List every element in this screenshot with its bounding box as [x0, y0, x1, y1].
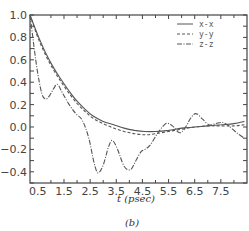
- y-tick-label: 0.4: [10, 76, 28, 89]
- legend-label: z-z: [199, 40, 214, 49]
- y-tick-label: 0.0: [10, 121, 28, 134]
- x-tick-label: 6.5: [186, 185, 204, 198]
- x-tick-label: 2.5: [81, 185, 99, 198]
- y-tick-label: 0.8: [10, 31, 28, 44]
- legend-label: y-y: [199, 30, 214, 39]
- legend-label: x-x: [199, 20, 214, 29]
- y-tick-label: −0.2: [0, 143, 27, 156]
- legend: x-xy-yz-z: [177, 20, 214, 49]
- x-tick-label: 5.5: [160, 185, 178, 198]
- y-tick-label: −0.4: [0, 166, 27, 179]
- plot-border: [30, 15, 247, 183]
- figure-caption: (b): [125, 217, 139, 228]
- x-tick-label: 1.5: [55, 185, 73, 198]
- y-tick-label: 0.6: [10, 54, 28, 67]
- x-tick-label: 0.5: [29, 185, 47, 198]
- x-tick-label: 7.5: [212, 185, 230, 198]
- chart: 0.51.52.53.54.55.56.57.5 −0.4−0.20.00.20…: [0, 0, 249, 231]
- y-tick-label: 0.2: [10, 99, 28, 112]
- x-axis-title: t (psec): [117, 193, 155, 204]
- y-tick-label: 1.0: [10, 9, 28, 22]
- plot-frame: [30, 15, 247, 183]
